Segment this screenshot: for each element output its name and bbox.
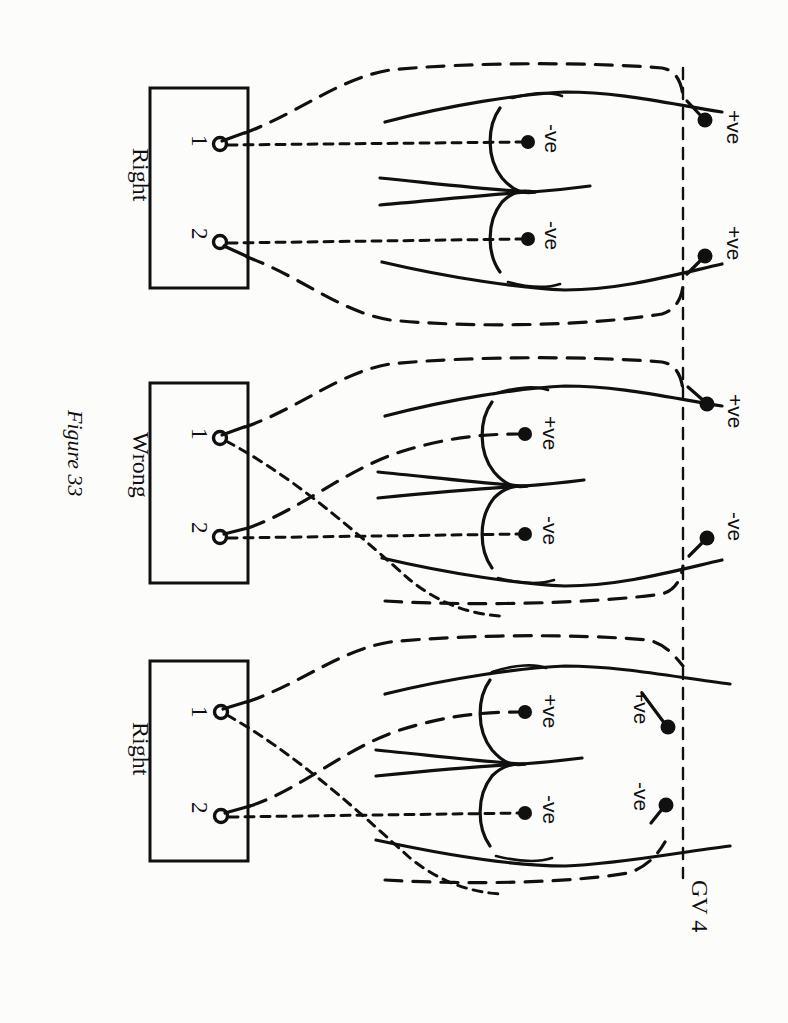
figure-page: .ink { stroke:#101010; fill:none; stroke… xyxy=(0,0,788,1023)
panel-bottom-inner-electrode-upper-label: +ve xyxy=(539,694,562,728)
panel-top-outer-electrode-lower-label: +ve xyxy=(723,226,746,260)
panel-middle: Wrong 1 2 +ve -ve xyxy=(128,358,747,616)
panel-top-inner-electrode-upper-label: -ve xyxy=(541,124,564,153)
panel-bottom-outer-electrode-lower-label: -ve xyxy=(630,782,653,811)
panel-bottom-terminal-1-number: 1 xyxy=(187,706,212,718)
panel-top-verdict: Right xyxy=(128,148,154,202)
panel-top-lead-1-inner xyxy=(228,142,525,145)
panel-bottom-outer-electrode-upper-label: +ve xyxy=(630,690,653,724)
panel-middle-terminal-2-number: 2 xyxy=(187,522,212,534)
panel-bottom-stub-1 xyxy=(223,702,246,709)
panel-top-inner-electrode-lower-label: -ve xyxy=(541,221,564,250)
terminal-block-box-middle xyxy=(150,383,248,583)
panel-middle-outer-electrode-lower-label: -ve xyxy=(724,512,747,541)
panel-top-terminal-2-number: 2 xyxy=(187,228,212,240)
panel-bottom-terminal-2-number: 2 xyxy=(187,802,212,814)
gv4-reference-line: GV 4 xyxy=(683,68,713,932)
panel-middle-outer-electrode-upper-label: +ve xyxy=(724,394,747,428)
figure-caption: Figure 33 xyxy=(63,409,88,497)
panel-bottom-inner-electrode-lower-dot xyxy=(518,806,532,820)
panel-middle-lead-2-inner xyxy=(228,534,525,538)
panel-top-lead-2-inner xyxy=(228,239,525,243)
panel-top-inner-electrode-lower-dot xyxy=(521,232,535,246)
panel-top-stub-2 xyxy=(224,246,246,256)
panel-bottom-stub-2 xyxy=(225,806,250,813)
panel-middle-terminal-1-number: 1 xyxy=(187,428,212,440)
panel-top-inner-electrode-upper-dot xyxy=(521,135,535,149)
panel-middle-inner-electrode-lower-dot xyxy=(518,527,532,541)
panel-middle-outer-stem-upper xyxy=(688,387,704,401)
panel-top: Right 1 2 -ve -ve xyxy=(128,64,746,325)
panel-top-outer-electrode-upper-label: +ve xyxy=(723,110,746,144)
panel-bottom: Right 1 2 +ve -ve xyxy=(128,636,730,894)
panel-top-stub-1 xyxy=(222,133,244,141)
panel-middle-outer-stem-lower xyxy=(689,541,704,556)
panel-bottom-verdict: Right xyxy=(128,722,154,776)
panel-top-lead-1-outer xyxy=(245,64,683,133)
panel-top-plant-strokes xyxy=(380,92,722,290)
terminal-block-box-bottom xyxy=(150,661,248,861)
panel-middle-inner-electrode-lower-label: -ve xyxy=(539,516,562,545)
panel-middle-verdict: Wrong xyxy=(128,432,154,498)
panel-middle-inner-electrode-upper-label: +ve xyxy=(539,416,562,450)
terminal-block-box-top xyxy=(150,88,248,288)
panel-bottom-inner-electrode-upper-dot xyxy=(518,705,532,719)
figure-33-diagram: .ink { stroke:#101010; fill:none; stroke… xyxy=(0,0,788,1023)
panel-top-terminal-1-number: 1 xyxy=(187,135,212,147)
panel-top-lead-2-outer xyxy=(247,257,683,325)
panel-bottom-inner-electrode-lower-label: -ve xyxy=(539,795,562,824)
panel-middle-stub-1 xyxy=(222,427,244,435)
panel-bottom-lead-1-crossing-down xyxy=(227,715,500,894)
panel-middle-lead-1-outer xyxy=(245,358,683,427)
gv4-label: GV 4 xyxy=(687,880,713,932)
panel-middle-inner-electrode-upper-dot xyxy=(518,427,532,441)
panel-middle-stub-2 xyxy=(224,528,248,534)
